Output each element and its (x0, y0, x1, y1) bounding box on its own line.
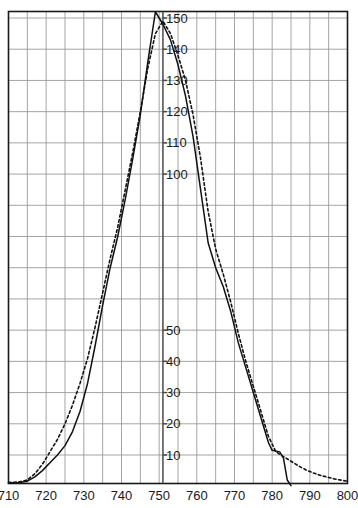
plot-canvas: 710720730740750760770780790800 102030405… (0, 0, 358, 508)
spectrum-chart: 710720730740750760770780790800 102030405… (0, 0, 358, 508)
x-tick-labels: 710720730740750760770780790800 (0, 488, 358, 503)
y-tick-label: 150 (166, 11, 188, 26)
y-tick-label: 10 (166, 448, 180, 463)
y-tick-label: 110 (166, 135, 187, 150)
series-line-solid (9, 12, 292, 486)
y-tick-label: 20 (166, 416, 180, 431)
x-tick-label: 770 (224, 488, 246, 503)
x-tick-label: 750 (148, 488, 170, 503)
x-tick-label: 790 (299, 488, 321, 503)
x-tick-label: 780 (261, 488, 283, 503)
x-tick-label: 740 (111, 488, 133, 503)
y-tick-label: 40 (166, 354, 180, 369)
x-tick-label: 760 (186, 488, 208, 503)
y-tick-label: 100 (166, 167, 188, 182)
x-tick-label: 720 (35, 488, 57, 503)
x-tick-label: 800 (337, 488, 358, 503)
y-tick-label: 140 (166, 42, 188, 57)
y-tick-label: 130 (166, 73, 188, 88)
y-tick-label: 50 (166, 323, 180, 338)
y-tick-label: 30 (166, 385, 180, 400)
y-tick-label: 120 (166, 104, 188, 119)
x-tick-label: 730 (73, 488, 95, 503)
x-tick-label: 710 (0, 488, 19, 503)
